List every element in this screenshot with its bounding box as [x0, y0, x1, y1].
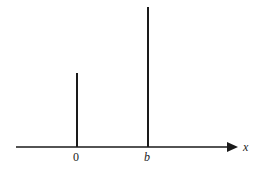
- x-axis-label: x: [243, 141, 248, 153]
- tick-label-b: b: [144, 151, 150, 163]
- x-axis-arrow-icon: [227, 142, 238, 152]
- tick-label-0: 0: [73, 151, 79, 163]
- diagram-canvas: [0, 0, 262, 174]
